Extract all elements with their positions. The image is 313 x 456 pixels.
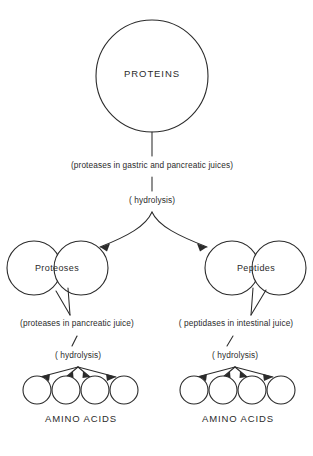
peptides-label: Peptides: [237, 263, 275, 273]
amino-acid-circle-right-3: [238, 376, 266, 404]
amino-acid-circle-right-1: [180, 376, 208, 404]
amino-acid-circle-left-1: [23, 376, 51, 404]
hydrolysis-left-label: ( hydrolysis): [55, 350, 101, 360]
branch-arrow-left-shaft: [100, 212, 152, 247]
proteoses-tail-left: [56, 291, 70, 315]
amino-acids-left-label: AMINO ACIDS: [45, 413, 117, 424]
amino-acid-circle-right-4: [267, 376, 295, 404]
branch-arrow-right-shaft: [152, 212, 207, 247]
protein-digestion-diagram: PROTEINS (proteases in gastric and pancr…: [0, 0, 313, 456]
enzymes-right-label: ( peptidases in intestinal juice): [179, 318, 293, 328]
amino-acid-circle-right-2: [209, 376, 237, 404]
amino-acid-circle-left-2: [52, 376, 80, 404]
amino-acid-circle-left-3: [81, 376, 109, 404]
amino-acid-circle-left-4: [110, 376, 138, 404]
right-connector-enzymes-to-hydrolysis: [227, 336, 233, 346]
enzymes-left-label: (proteases in pancreatic juice): [20, 318, 134, 328]
left-connector-enzymes-to-hydrolysis: [72, 336, 77, 346]
proteoses-label: Proteoses: [35, 263, 79, 273]
peptides-tail-left: [251, 288, 253, 315]
enzymes-top-label: (proteases in gastric and pancreatic jui…: [71, 160, 233, 170]
proteins-label: PROTEINS: [124, 68, 180, 79]
peptides-tail-right: [251, 290, 266, 315]
hydrolysis-right-label: ( hydrolysis): [212, 350, 258, 360]
amino-acids-right-label: AMINO ACIDS: [202, 413, 274, 424]
hydrolysis-top-label: ( hydrolysis): [129, 195, 175, 205]
